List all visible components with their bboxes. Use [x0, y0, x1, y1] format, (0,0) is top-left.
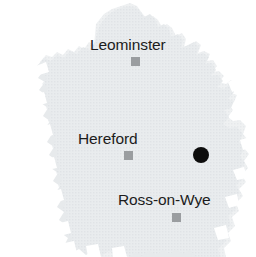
county-outline-map: [0, 0, 256, 257]
land-texture: [0, 0, 256, 257]
land-mass: [0, 0, 256, 257]
map-figure: Leominster Hereford Ross-on-Wye: [0, 0, 256, 257]
